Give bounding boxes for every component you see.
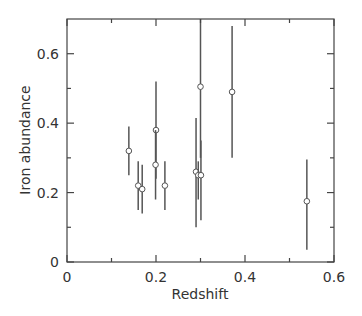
x-tick-label: 0.4: [234, 269, 256, 285]
y-tick-label: 0.6: [37, 46, 59, 62]
y-tick-label: 0.2: [37, 185, 59, 201]
x-axis-title: Redshift: [172, 286, 229, 302]
data-point: [229, 89, 235, 95]
data-point: [153, 162, 159, 168]
data-point: [139, 186, 145, 192]
y-tick-label: 0.4: [37, 115, 59, 131]
scatter-chart: 00.20.40.600.20.40.6 Redshift Iron abund…: [0, 0, 362, 316]
data-point: [304, 198, 310, 204]
y-axis-title: Iron abundance: [17, 85, 33, 194]
data-point: [162, 183, 168, 189]
data-point: [126, 148, 132, 154]
plot-area: [126, 19, 310, 250]
data-point: [198, 84, 204, 90]
data-point: [198, 172, 204, 178]
axis-ticks: 00.20.40.600.20.40.6: [37, 19, 345, 285]
y-tick-label: 0: [50, 254, 59, 270]
x-tick-label: 0.2: [145, 269, 167, 285]
x-tick-label: 0: [63, 269, 72, 285]
x-tick-label: 0.6: [323, 269, 345, 285]
